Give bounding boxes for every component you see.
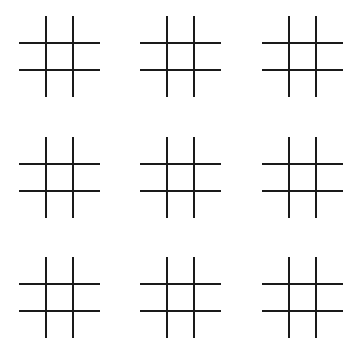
board-cell[interactable] bbox=[194, 43, 221, 70]
board-cell[interactable] bbox=[289, 16, 316, 43]
board-cell[interactable] bbox=[140, 70, 167, 97]
board-cell[interactable] bbox=[316, 70, 343, 97]
tic-tac-toe-board bbox=[262, 257, 343, 338]
board-cell[interactable] bbox=[167, 191, 194, 218]
board-cell[interactable] bbox=[46, 16, 73, 43]
board-cell[interactable] bbox=[289, 284, 316, 311]
board-cell[interactable] bbox=[194, 164, 221, 191]
board-cell[interactable] bbox=[73, 284, 100, 311]
tic-tac-toe-board bbox=[140, 137, 221, 218]
board-cell[interactable] bbox=[194, 137, 221, 164]
board-cell[interactable] bbox=[140, 164, 167, 191]
board-cell[interactable] bbox=[46, 311, 73, 338]
board-cell[interactable] bbox=[262, 70, 289, 97]
board-cell[interactable] bbox=[194, 70, 221, 97]
board-cell[interactable] bbox=[167, 70, 194, 97]
board-cell[interactable] bbox=[19, 284, 46, 311]
tic-tac-toe-board bbox=[140, 16, 221, 97]
board-cell[interactable] bbox=[46, 164, 73, 191]
tic-tac-toe-board bbox=[262, 137, 343, 218]
board-cell[interactable] bbox=[19, 311, 46, 338]
tic-tac-toe-board bbox=[19, 257, 100, 338]
board-cell[interactable] bbox=[19, 70, 46, 97]
tic-tac-toe-board bbox=[140, 257, 221, 338]
board-cell[interactable] bbox=[140, 16, 167, 43]
board-cell[interactable] bbox=[262, 164, 289, 191]
board-cell[interactable] bbox=[140, 311, 167, 338]
board-cell[interactable] bbox=[167, 16, 194, 43]
board-cell[interactable] bbox=[316, 311, 343, 338]
tic-tac-toe-board bbox=[19, 16, 100, 97]
board-cell[interactable] bbox=[194, 191, 221, 218]
board-cell[interactable] bbox=[167, 137, 194, 164]
board-cell[interactable] bbox=[46, 284, 73, 311]
board-cell[interactable] bbox=[289, 311, 316, 338]
board-cell[interactable] bbox=[262, 137, 289, 164]
board-cell[interactable] bbox=[46, 137, 73, 164]
board-cell[interactable] bbox=[316, 257, 343, 284]
board-cell[interactable] bbox=[316, 284, 343, 311]
board-cell[interactable] bbox=[316, 164, 343, 191]
tic-tac-toe-board bbox=[19, 137, 100, 218]
board-cell[interactable] bbox=[262, 43, 289, 70]
board-cell[interactable] bbox=[289, 70, 316, 97]
board-cell[interactable] bbox=[19, 43, 46, 70]
board-cell[interactable] bbox=[19, 191, 46, 218]
board-cell[interactable] bbox=[262, 16, 289, 43]
board-cell[interactable] bbox=[19, 16, 46, 43]
board-cell[interactable] bbox=[140, 284, 167, 311]
board-cell[interactable] bbox=[167, 257, 194, 284]
board-cell[interactable] bbox=[262, 311, 289, 338]
board-cell[interactable] bbox=[73, 137, 100, 164]
board-cell[interactable] bbox=[19, 164, 46, 191]
board-cell[interactable] bbox=[46, 257, 73, 284]
board-cell[interactable] bbox=[262, 191, 289, 218]
board-cell[interactable] bbox=[289, 191, 316, 218]
board-cell[interactable] bbox=[167, 284, 194, 311]
board-cell[interactable] bbox=[262, 284, 289, 311]
board-cell[interactable] bbox=[19, 137, 46, 164]
board-cell[interactable] bbox=[194, 257, 221, 284]
board-cell[interactable] bbox=[73, 16, 100, 43]
board-cell[interactable] bbox=[194, 284, 221, 311]
tic-tac-toe-board bbox=[262, 16, 343, 97]
board-cell[interactable] bbox=[289, 257, 316, 284]
board-cell[interactable] bbox=[167, 43, 194, 70]
board-cell[interactable] bbox=[46, 191, 73, 218]
board-cell[interactable] bbox=[316, 16, 343, 43]
board-cell[interactable] bbox=[167, 164, 194, 191]
board-cell[interactable] bbox=[289, 164, 316, 191]
board-cell[interactable] bbox=[167, 311, 194, 338]
board-cell[interactable] bbox=[73, 43, 100, 70]
board-cell[interactable] bbox=[73, 191, 100, 218]
board-cell[interactable] bbox=[46, 70, 73, 97]
board-cell[interactable] bbox=[194, 311, 221, 338]
board-cell[interactable] bbox=[46, 43, 73, 70]
board-cell[interactable] bbox=[262, 257, 289, 284]
board-cell[interactable] bbox=[140, 43, 167, 70]
board-cell[interactable] bbox=[194, 16, 221, 43]
board-cell[interactable] bbox=[140, 257, 167, 284]
board-cell[interactable] bbox=[19, 257, 46, 284]
board-cell[interactable] bbox=[316, 191, 343, 218]
board-cell[interactable] bbox=[73, 70, 100, 97]
board-cell[interactable] bbox=[316, 43, 343, 70]
board-cell[interactable] bbox=[316, 137, 343, 164]
board-cell[interactable] bbox=[289, 137, 316, 164]
board-cell[interactable] bbox=[140, 137, 167, 164]
board-cell[interactable] bbox=[73, 164, 100, 191]
board-cell[interactable] bbox=[73, 311, 100, 338]
board-cell[interactable] bbox=[140, 191, 167, 218]
board-cell[interactable] bbox=[289, 43, 316, 70]
board-cell[interactable] bbox=[73, 257, 100, 284]
